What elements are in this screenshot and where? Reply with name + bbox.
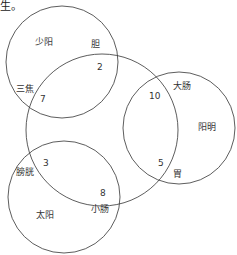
shaoyang-label: 少阳 [35,37,53,47]
number-wei: 5 [158,158,164,168]
organ-sanjiao: 三焦 [16,83,34,94]
number-pangguang: 3 [43,158,49,168]
center-circle [26,54,178,206]
organ-pangguang: 膀胱 [16,166,34,177]
number-xiaochang: 8 [100,188,106,198]
organ-dan: 胆 [91,39,100,49]
organ-wei: 胃 [173,169,182,179]
venn-diagram: 生。 少阳 阳明 太阳 胆 三焦 大肠 胃 膀胱 小肠 2 7 10 5 3 8 [0,0,237,255]
organ-xiaochang: 小肠 [91,204,109,214]
header-fragment: 生。 [0,0,22,13]
organ-dachang: 大肠 [173,80,191,91]
number-sanjiao: 7 [40,94,46,104]
yangming-label: 阳明 [198,122,216,132]
number-dan: 2 [97,62,103,72]
number-dachang: 10 [149,91,161,101]
taiyang-label: 太阳 [36,209,54,220]
